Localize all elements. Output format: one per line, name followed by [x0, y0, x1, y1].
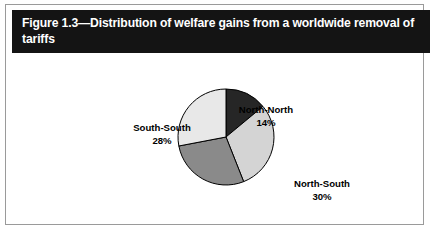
pie-chart — [12, 53, 430, 230]
figure-caption-text: Figure 1.3—Distribution of welfare gains… — [22, 16, 420, 47]
pie-label-north-south-name: North-South — [264, 177, 380, 190]
pie-label-south-south-name: South-South — [104, 121, 220, 134]
pie-label-south-south: South-South 28% — [104, 121, 220, 147]
chart-area: North-North 14% South-South 28% North-So… — [12, 53, 430, 230]
pie-label-south-south-value: 28% — [104, 134, 220, 147]
figure-frame: Figure 1.3—Distribution of welfare gains… — [5, 4, 424, 225]
pie-chart-svg — [12, 53, 430, 230]
pie-label-north-north-name: North-North — [208, 103, 324, 116]
figure-caption-bar: Figure 1.3—Distribution of welfare gains… — [12, 10, 430, 53]
pie-label-north-north-value: 14% — [208, 116, 324, 129]
pie-label-north-north: North-North 14% — [208, 103, 324, 129]
pie-label-north-south-value: 30% — [264, 190, 380, 203]
pie-label-north-south: North-South 30% — [264, 177, 380, 203]
